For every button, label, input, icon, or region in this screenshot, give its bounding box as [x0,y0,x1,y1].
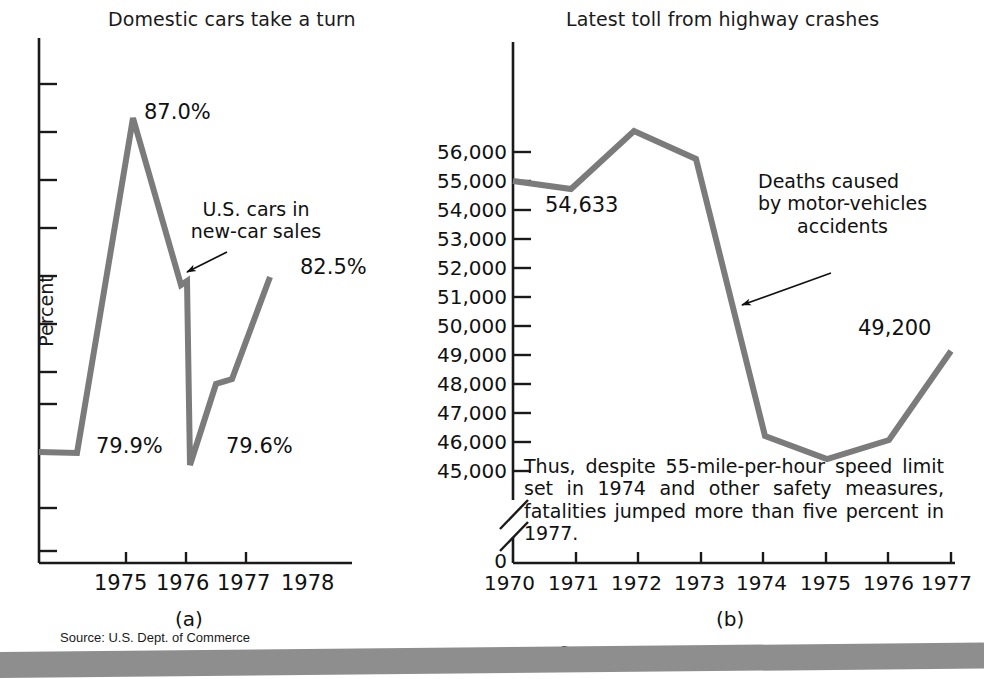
panel-b-label-first: 54,633 [545,193,618,217]
panel-b-annotation-line2: by motor-vehicles [758,192,927,214]
panel-b-note: Thus, despite 55-mile-per-hour speed lim… [524,455,944,545]
panel-a-label-end: 82.5% [300,255,367,279]
panel-b-ytick-52000: 52,000 [411,256,507,280]
panel-a-annotation: U.S. cars in new-car sales [176,198,336,243]
panel-b-xtick-1976: 1976 [863,571,914,595]
panel-b-annotation: Deaths caused by motor-vehicles accident… [758,170,927,237]
panel-a-xtick-1975: 1975 [94,571,147,595]
panel-a-title: Domestic cars take a turn [108,8,356,30]
panel-b-ytick-53000: 53,000 [411,227,507,251]
panel-b-letter: (b) [716,607,744,631]
panel-a-y-axis-label: Percent [35,251,57,371]
panel-b-xtick-1975: 1975 [800,571,851,595]
panel-a-source: Source: U.S. Dept. of Commerce [60,630,250,645]
panel-b-ytick-45000: 45,000 [411,459,507,483]
panel-a-annotation-arrow [187,252,227,272]
panel-b-ytick-56000: 56,000 [411,140,507,164]
panel-a-annotation-line2: new-car sales [176,220,336,242]
panel-b-xtick-1977: 1977 [921,571,972,595]
panel-b-xtick-1971: 1971 [548,571,599,595]
panel-a-letter: (a) [175,607,203,631]
panel-a-xtick-1978: 1978 [281,571,334,595]
panel-b-ytick-50000: 50,000 [411,314,507,338]
panel-b-ytick-54000: 54,000 [411,198,507,222]
panel-b-annotation-arrow [742,273,831,305]
panel-b-xtick-1970: 1970 [484,571,535,595]
panel-b-ytick-48000: 48,000 [411,372,507,396]
panel-a-xtick-1976: 1976 [156,571,209,595]
panel-b-ytick-46000: 46,000 [411,430,507,454]
panel-a-annotation-line1: U.S. cars in [176,198,336,220]
panel-b-xtick-1974: 1974 [736,571,787,595]
panel-b-xtick-1973: 1973 [674,571,725,595]
panel-b-ytick-47000: 47,000 [411,401,507,425]
panel-b-ytick-0: 0 [411,549,507,573]
panel-b-annotation-line1: Deaths caused [758,170,927,192]
panel-b-ytick-49000: 49,000 [411,343,507,367]
panel-b-ytick-51000: 51,000 [411,285,507,309]
panel-a-label-start: 79.9% [96,434,163,458]
panel-a-data-line [39,118,270,465]
panel-b-label-last: 49,200 [858,316,931,340]
panel-b-title: Latest toll from highway crashes [566,8,879,30]
panel-b-xtick-1972: 1972 [611,571,662,595]
panel-a-label-peak: 87.0% [144,100,211,124]
panel-b-x-ticks [576,552,951,563]
panel-a-label-trough: 79.6% [226,434,293,458]
panel-b-y-ticks [513,152,531,471]
panel-a-x-ticks [126,552,246,563]
panel-b-annotation-line3: accidents [758,215,927,237]
panel-a-xtick-1977: 1977 [217,571,270,595]
panel-b-ytick-55000: 55,000 [411,169,507,193]
